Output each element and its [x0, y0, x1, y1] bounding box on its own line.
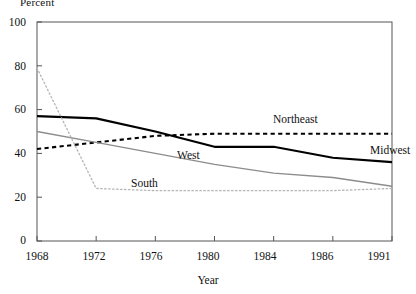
x-tick-label-1986: 1986: [302, 250, 342, 262]
chart-figure: Percent 100 80 60 40 20 0 1968 1972 1976…: [0, 0, 416, 294]
y-tick-label-80: 80: [0, 60, 26, 72]
x-tick-label-1976: 1976: [131, 250, 171, 262]
x-tick-label-1984: 1984: [245, 250, 285, 262]
y-axis-title: Percent: [20, 0, 54, 8]
y-tick-label-0: 0: [0, 234, 26, 246]
plot-frame: [37, 22, 392, 241]
x-tick-label-1980: 1980: [188, 250, 228, 262]
y-tick-label-100: 100: [0, 16, 26, 28]
series-label-west: West: [177, 149, 200, 161]
x-tick-label-1972: 1972: [74, 250, 114, 262]
series-label-south: South: [131, 177, 158, 189]
y-tick-label-20: 20: [0, 191, 26, 203]
y-tick-label-60: 60: [0, 103, 26, 115]
x-tick-label-1968: 1968: [17, 250, 57, 262]
x-axis-title: Year: [178, 274, 238, 286]
y-tick-label-40: 40: [0, 147, 26, 159]
series-label-northeast: Northeast: [273, 113, 318, 125]
series-label-midwest: Midwest: [370, 144, 410, 156]
x-tick-label-1991: 1991: [359, 250, 399, 262]
